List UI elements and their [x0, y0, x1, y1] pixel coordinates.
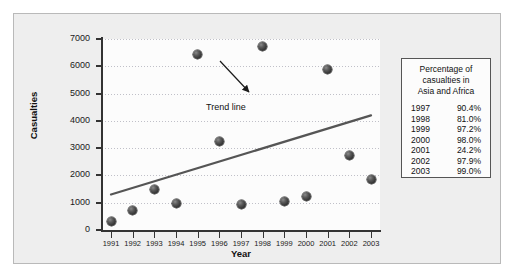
y-axis-tick-label: 3000	[54, 143, 90, 152]
y-axis-tick-label: 2000	[54, 170, 90, 179]
x-axis-title: Year	[102, 248, 380, 259]
legend-row-percent: 98.0%	[457, 135, 481, 146]
legend-row: 200399.0%	[411, 166, 481, 177]
plot-area: Trend line	[102, 39, 380, 230]
x-axis-tick	[154, 232, 155, 238]
legend-row-year: 2003	[411, 166, 430, 177]
x-axis-tick	[306, 232, 307, 238]
y-axis-title: Casualties	[28, 66, 39, 166]
x-axis-tick	[241, 232, 242, 238]
legend-row-percent: 97.2%	[457, 124, 481, 135]
x-axis-tick	[219, 232, 220, 238]
x-axis-tick	[133, 232, 134, 238]
legend-row-year: 2002	[411, 156, 430, 167]
x-axis-tick	[349, 232, 350, 238]
y-axis-tick-label: 1000	[54, 198, 90, 207]
legend-row-percent: 97.9%	[457, 156, 481, 167]
trend-line-arrow-icon	[102, 39, 380, 230]
x-axis-tick	[328, 232, 329, 238]
legend-table: Percentage ofcasualties inAsia and Afric…	[401, 58, 491, 178]
legend-row-year: 1999	[411, 124, 430, 135]
legend-title-line: Percentage of	[406, 64, 486, 75]
legend-row-percent: 99.0%	[457, 166, 481, 177]
y-axis-tick-label: 0	[54, 225, 90, 234]
legend-rows: 199790.4%199881.0%199997.2%200098.0%2001…	[402, 103, 490, 177]
legend-title-line: casualties in	[406, 75, 486, 86]
x-axis-tick	[371, 232, 372, 238]
x-axis-tick	[284, 232, 285, 238]
x-axis-tick	[111, 232, 112, 238]
legend-row: 199997.2%	[411, 124, 481, 135]
y-axis-tick-label: 7000	[54, 34, 90, 43]
legend-row: 199790.4%	[411, 103, 481, 114]
legend-row: 199881.0%	[411, 114, 481, 125]
legend-row: 200297.9%	[411, 156, 481, 167]
y-axis-line	[101, 37, 103, 232]
y-axis-tick-label: 6000	[54, 61, 90, 70]
chart-figure: Trend line 01000200030004000500060007000…	[13, 13, 501, 264]
x-axis-tick-label: 2003	[358, 240, 384, 248]
legend-row-year: 1998	[411, 114, 430, 125]
legend-row: 200098.0%	[411, 135, 481, 146]
x-axis-tick	[176, 232, 177, 238]
y-axis-tick-label: 4000	[54, 116, 90, 125]
trend-line-annotation-label: Trend line	[206, 102, 246, 112]
legend-row-percent: 81.0%	[457, 114, 481, 125]
legend-row-year: 1997	[411, 103, 430, 114]
legend-row-year: 2001	[411, 145, 430, 156]
y-axis-tick-label: 5000	[54, 89, 90, 98]
legend-row-year: 2000	[411, 135, 430, 146]
legend-title-line: Asia and Africa	[406, 86, 486, 97]
legend-title: Percentage ofcasualties inAsia and Afric…	[402, 64, 490, 97]
legend-row-percent: 90.4%	[457, 103, 481, 114]
x-axis-tick	[263, 232, 264, 238]
legend-row: 200124.2%	[411, 145, 481, 156]
x-axis-tick	[198, 232, 199, 238]
legend-row-percent: 24.2%	[457, 145, 481, 156]
